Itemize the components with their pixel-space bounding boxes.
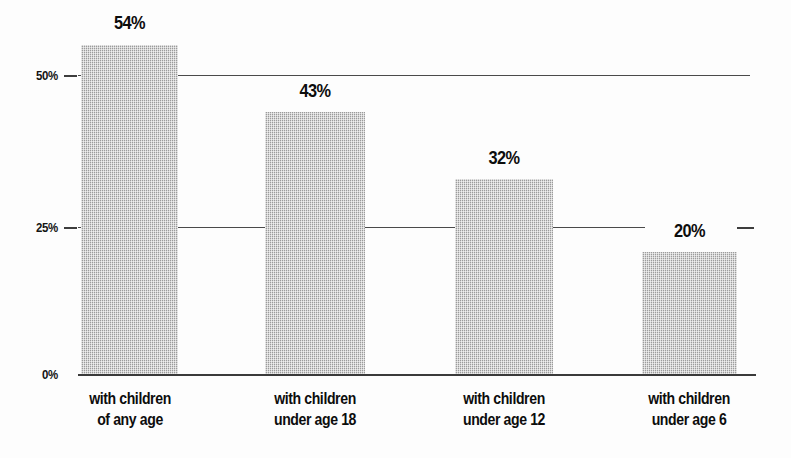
axis-baseline bbox=[78, 374, 756, 376]
y-tick-label-50: 50% bbox=[16, 68, 58, 83]
gridline-25-seg3 bbox=[365, 227, 455, 228]
category-label-2: with children under age 18 bbox=[249, 388, 381, 430]
bar-with-children-under-age-18 bbox=[265, 112, 365, 374]
gridline-50-right bbox=[178, 75, 750, 76]
bar-value-label-2: 43% bbox=[272, 80, 358, 102]
category-label-4-line1: with children bbox=[648, 390, 730, 407]
bar-with-children-under-age-12 bbox=[455, 179, 553, 374]
category-label-1: with children of any age bbox=[64, 388, 196, 430]
category-label-3: with children under age 12 bbox=[438, 388, 570, 430]
y-tick-label-25: 25% bbox=[16, 220, 58, 235]
y-axis-tick-50 bbox=[64, 75, 77, 77]
bar-chart: 50% 25% 0% 54% 43% 32% 20% with children… bbox=[0, 0, 791, 458]
gridline-25-right-tick bbox=[737, 227, 754, 229]
bar-with-children-under-age-6 bbox=[642, 252, 737, 374]
category-label-4-line2: under age 6 bbox=[623, 409, 755, 430]
bar-value-label-4: 20% bbox=[649, 220, 731, 242]
gridline-25-seg4 bbox=[553, 227, 645, 228]
gridline-25-seg2 bbox=[178, 227, 265, 228]
y-axis-tick-25 bbox=[64, 227, 77, 229]
category-label-1-line2: of any age bbox=[64, 409, 196, 430]
category-label-3-line1: with children bbox=[463, 390, 545, 407]
bar-with-children-of-any-age bbox=[81, 45, 178, 374]
category-label-3-line2: under age 12 bbox=[438, 409, 570, 430]
bar-value-label-1: 54% bbox=[88, 12, 171, 34]
category-label-1-line1: with children bbox=[89, 390, 171, 407]
category-label-4: with children under age 6 bbox=[623, 388, 755, 430]
y-tick-label-0: 0% bbox=[16, 367, 58, 382]
category-label-2-line1: with children bbox=[274, 390, 356, 407]
bar-value-label-3: 32% bbox=[462, 147, 546, 169]
category-label-2-line2: under age 18 bbox=[249, 409, 381, 430]
